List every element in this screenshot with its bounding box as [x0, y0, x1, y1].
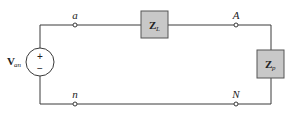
terminal-N-icon: [234, 102, 238, 106]
terminal-A-icon: [234, 23, 238, 27]
node-label-a: a: [72, 9, 78, 21]
line-impedance-box: Z L: [141, 11, 168, 38]
zp-label-sub: p: [271, 64, 276, 72]
plus-sign: +: [37, 51, 43, 62]
terminal-a-icon: [73, 23, 77, 27]
terminal-n-icon: [73, 102, 77, 106]
node-label-A: A: [232, 9, 240, 21]
zl-label-sub: L: [155, 25, 160, 33]
source-label-sub: an: [14, 61, 22, 69]
circuit-diagram: + − V an a A n N Z L Z p: [0, 0, 296, 113]
voltage-source: + − V an: [7, 48, 54, 76]
node-label-n: n: [72, 88, 78, 100]
load-impedance-box: Z p: [257, 50, 284, 78]
node-label-N: N: [231, 88, 240, 100]
minus-sign: −: [37, 63, 43, 74]
